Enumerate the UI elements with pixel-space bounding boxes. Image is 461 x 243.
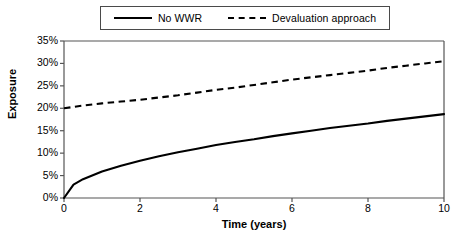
series-line-devaluation-approach — [64, 61, 444, 108]
chart-figure: No WWR Devaluation approach Exposure Tim… — [0, 0, 461, 243]
series-line-no-wwr — [64, 114, 444, 198]
plot-area — [0, 0, 461, 243]
x-axis-ticks — [64, 198, 444, 202]
axes-frame — [64, 41, 444, 198]
